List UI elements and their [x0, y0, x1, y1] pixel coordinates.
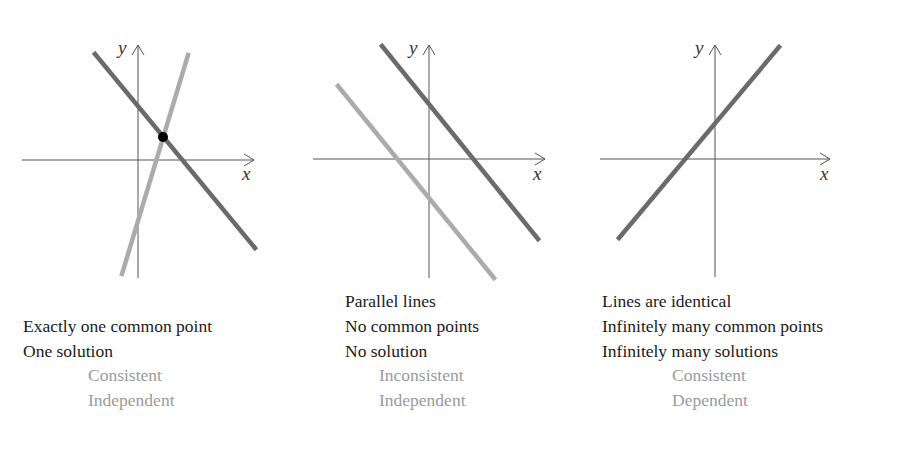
caption-line: Parallel lines [345, 289, 479, 314]
intersection-point [158, 132, 168, 142]
classification-line: Independent [379, 388, 466, 413]
y-axis-label: y [693, 37, 704, 58]
classification-line: Dependent [672, 388, 748, 413]
caption-identical: Lines are identical Infinitely many comm… [602, 289, 823, 364]
classification-intersecting: Consistent Independent [88, 363, 175, 413]
classification-parallel: Inconsistent Independent [379, 363, 466, 413]
caption-line: No solution [345, 339, 479, 364]
x-axis-label: x [241, 163, 251, 184]
line-identical [619, 47, 779, 238]
caption-line: Infinitely many common points [602, 314, 823, 339]
line-dark [382, 46, 538, 239]
caption-line: One solution [23, 339, 212, 364]
line-dark [95, 54, 255, 248]
y-axis-label: y [407, 37, 418, 58]
classification-line: Inconsistent [379, 363, 466, 388]
line-light [338, 86, 494, 278]
panel-parallel-graph: y x [313, 37, 545, 278]
caption-line: Exactly one common point [23, 314, 212, 339]
classification-identical: Consistent Dependent [672, 363, 748, 413]
x-axis-label: x [532, 163, 542, 184]
caption-line [23, 289, 212, 314]
classification-line: Consistent [88, 363, 175, 388]
panel-intersecting-graph: y x [22, 37, 255, 278]
y-axis-label: y [116, 37, 127, 58]
classification-line: Consistent [672, 363, 748, 388]
panel-identical-graph: y x [600, 37, 830, 277]
caption-line: No common points [345, 314, 479, 339]
classification-line: Independent [88, 388, 175, 413]
caption-parallel: Parallel lines No common points No solut… [345, 289, 479, 364]
x-axis-label: x [819, 163, 829, 184]
line-light [122, 55, 188, 274]
caption-line: Lines are identical [602, 289, 823, 314]
caption-intersecting: Exactly one common point One solution [23, 289, 212, 364]
caption-line: Infinitely many solutions [602, 339, 823, 364]
